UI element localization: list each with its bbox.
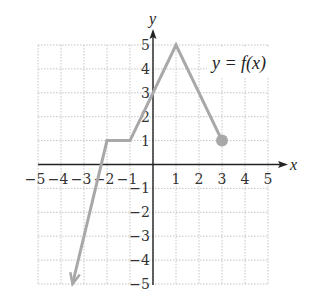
x-tick-label: −5 [25,171,46,187]
x-tick-label: 1 [172,171,181,187]
y-tick-label: −4 [129,252,150,268]
y-tick-label: −2 [129,204,150,220]
function-label-box: y = f(x) [207,47,271,77]
x-tick-label: −4 [48,171,69,187]
x-tick-label: 3 [218,171,227,187]
y-axis-label: y [147,10,157,28]
x-tick-label: 4 [241,171,250,187]
function-label: y = f(x) [210,53,266,74]
y-tick-label: −3 [129,228,150,244]
x-tick-label: 2 [195,171,204,187]
y-tick-label: 4 [141,61,150,77]
x-axis-label: x [289,156,297,173]
y-tick-label: −5 [129,276,150,292]
y-tick-label: 1 [141,133,150,149]
closed-dot-icon [216,135,228,147]
x-tick-label: −3 [71,171,92,187]
function-graph: −5−4−3−2−112345−5−4−3−2−112345 y = f(x) … [0,0,310,308]
x-tick-label: 5 [264,171,273,187]
y-tick-label: 5 [141,37,150,53]
y-tick-label: −1 [129,180,150,196]
graph-figure: −5−4−3−2−112345−5−4−3−2−112345 y = f(x) … [0,0,310,308]
